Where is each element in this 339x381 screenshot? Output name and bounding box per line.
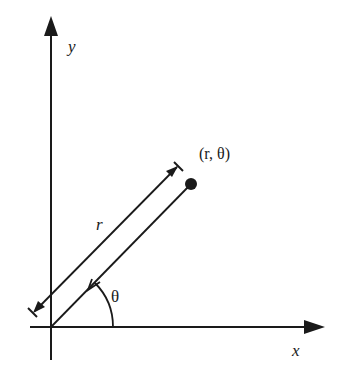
point-label: (r, θ) — [199, 146, 230, 162]
x-axis-label: x — [292, 342, 300, 359]
y-axis-label: y — [68, 38, 76, 55]
x-axis-arrow-icon — [304, 320, 325, 334]
y-axis — [44, 16, 58, 360]
angle-arrow-icon — [88, 279, 100, 290]
angle-label: θ — [111, 288, 119, 305]
y-axis-arrow-icon — [44, 16, 58, 36]
radius-label: r — [96, 216, 103, 233]
diagram-canvas — [0, 0, 339, 381]
radius-line — [51, 184, 191, 327]
point-marker — [185, 178, 197, 190]
polar-coordinate-diagram: y x (r, θ) r θ — [0, 0, 339, 381]
angle-arc — [86, 278, 113, 327]
x-axis — [30, 320, 325, 334]
